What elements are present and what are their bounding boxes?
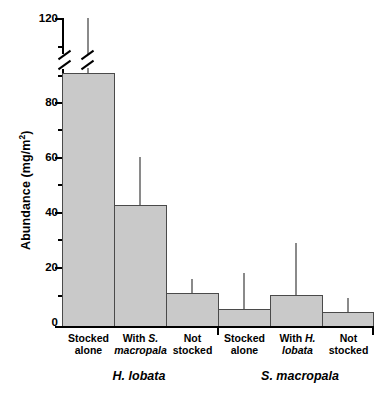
category-label-not-stocked-hlobata: Not stocked <box>165 333 220 356</box>
y-tick-label-0: 0 <box>28 317 58 329</box>
y-axis-tick-labels: 120 80 60 40 20 0 <box>28 0 58 340</box>
category-label-line1: Stocked <box>213 333 276 345</box>
category-label-line2: stocked <box>165 345 220 357</box>
category-label-stocked-alone-smacropala: Stocked alone <box>213 333 276 356</box>
group-label-smacropala: S. macropala <box>230 369 370 383</box>
bar-not-stocked-smacropala <box>322 312 374 326</box>
bar-with-smacropala <box>114 205 167 326</box>
category-label-line2-italic: macropala <box>114 344 167 356</box>
species-group-labels: H. lobata S. macropala <box>62 369 374 389</box>
y-tick-label-20: 20 <box>28 262 58 274</box>
category-label-line1-italic: H. <box>305 332 316 344</box>
category-label-line1: Not <box>165 333 220 345</box>
y-tick-label-80: 80 <box>28 97 58 109</box>
error-bar-4 <box>243 273 245 309</box>
y-tick-label-120: 120 <box>28 13 58 25</box>
category-label-line1: Not <box>320 333 377 345</box>
category-label-line2: stocked <box>320 345 377 357</box>
y-tick-major-0 <box>55 326 62 328</box>
error-bar-6 <box>347 298 349 312</box>
bar-stocked-alone-hlobata <box>62 73 115 326</box>
plot-area <box>62 18 374 328</box>
bar-with-hlobata <box>270 295 323 326</box>
x-axis-category-labels: Stocked alone With S. macropala Not stoc… <box>62 333 374 363</box>
category-label-line1-plain: With <box>123 332 149 344</box>
y-axis-label-container: Abundance (mg/m2) <box>0 0 22 340</box>
error-bar-3 <box>191 279 193 293</box>
y-tick-label-40: 40 <box>28 207 58 219</box>
y-tick-major-80 <box>55 102 62 104</box>
category-label-not-stocked-smacropala: Not stocked <box>320 333 377 356</box>
category-label-line1-italic: S. <box>148 332 158 344</box>
bar-stocked-alone-smacropala <box>218 309 271 326</box>
error-bar-2 <box>139 157 141 205</box>
y-tick-label-60: 60 <box>28 152 58 164</box>
y-tick-minor-110 <box>58 46 63 48</box>
category-label-line1-plain: With <box>279 332 305 344</box>
y-tick-major-40 <box>55 212 62 214</box>
category-label-line2: lobata <box>269 345 326 357</box>
category-label-line2-italic: lobata <box>282 344 313 356</box>
y-axis-label-exponent: 2 <box>17 135 27 140</box>
error-bar-5 <box>295 243 297 295</box>
category-label-with-hlobata: With H. lobata <box>269 333 326 356</box>
y-tick-major-20 <box>55 267 62 269</box>
y-tick-major-60 <box>55 157 62 159</box>
group-label-hlobata: H. lobata <box>74 369 204 383</box>
y-tick-major-120 <box>55 18 62 20</box>
chart-figure: Abundance (mg/m2) 120 80 60 40 20 0 <box>0 0 391 400</box>
bar-not-stocked-hlobata <box>166 293 219 326</box>
category-label-with-smacropala: With S. macropala <box>107 333 174 356</box>
category-label-line2: alone <box>213 345 276 357</box>
category-label-line2: macropala <box>107 345 174 357</box>
